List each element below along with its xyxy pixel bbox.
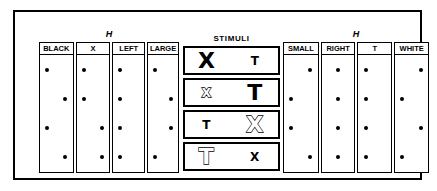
matrix-cell — [113, 143, 144, 172]
matrix-dot — [289, 97, 293, 101]
stimulus-box: XT — [183, 46, 280, 75]
matrix-dot — [419, 126, 423, 130]
matrix-cell — [148, 84, 178, 113]
stimuli-panel: STIMULI XTXTTXTX — [183, 34, 280, 180]
matrix-dot — [308, 155, 312, 159]
column-header: WHITE — [395, 43, 428, 55]
column-header: RIGHT — [322, 43, 355, 55]
column-header: LEFT — [113, 43, 144, 55]
column-body — [284, 55, 318, 172]
matrix-dot — [63, 155, 67, 159]
attribute-column: X — [76, 42, 111, 173]
matrix-cell — [113, 55, 144, 84]
matrix-dot — [82, 97, 86, 101]
stimulus-glyph-left: X — [198, 50, 215, 72]
matrix-cell — [40, 143, 73, 172]
stimulus-box: TX — [183, 110, 280, 139]
matrix-dot — [419, 68, 423, 72]
right-attribute-panel: H SMALLRIGHTTWHITE — [283, 30, 429, 180]
attribute-column: SMALL — [283, 42, 319, 173]
figure-outer-frame: H BLACKXLEFTLARGE STIMULI XTXTTXTX H SMA… — [13, 10, 422, 180]
matrix-cell — [284, 143, 318, 172]
column-header: X — [77, 43, 110, 55]
column-header: LARGE — [148, 43, 178, 55]
column-header: SMALL — [284, 43, 318, 55]
attribute-column: LEFT — [112, 42, 145, 173]
attribute-column: LARGE — [147, 42, 179, 173]
matrix-dot — [118, 68, 122, 72]
column-body — [113, 55, 144, 172]
matrix-cell — [77, 84, 110, 113]
matrix-cell — [113, 114, 144, 143]
matrix-cell — [148, 55, 178, 84]
matrix-cell — [148, 114, 178, 143]
matrix-cell — [395, 84, 428, 113]
column-body — [395, 55, 428, 172]
matrix-dot — [118, 97, 122, 101]
stimulus-glyph-left: T — [199, 146, 214, 168]
matrix-dot — [118, 126, 122, 130]
matrix-dot — [364, 126, 368, 130]
matrix-cell — [395, 55, 428, 84]
matrix-cell — [358, 114, 391, 143]
attribute-column: WHITE — [394, 42, 429, 173]
matrix-cell — [284, 114, 318, 143]
matrix-cell — [77, 114, 110, 143]
matrix-dot — [400, 155, 404, 159]
matrix-dot — [100, 155, 104, 159]
matrix-dot — [45, 126, 49, 130]
matrix-dot — [336, 126, 340, 130]
matrix-cell — [395, 114, 428, 143]
matrix-dot — [82, 68, 86, 72]
stimulus-box: TX — [183, 142, 280, 171]
matrix-cell — [40, 84, 73, 113]
stimulus-glyph-left: X — [202, 87, 211, 99]
stimulus-glyph-right: X — [246, 114, 263, 136]
column-body — [358, 55, 391, 172]
matrix-dot — [364, 97, 368, 101]
column-body — [322, 55, 355, 172]
matrix-cell — [358, 84, 391, 113]
column-body — [148, 55, 178, 172]
matrix-dot — [364, 68, 368, 72]
column-header: BLACK — [40, 43, 73, 55]
figure-root: H BLACKXLEFTLARGE STIMULI XTXTTXTX H SMA… — [0, 0, 437, 191]
matrix-dot — [153, 68, 157, 72]
right-panel-columns: SMALLRIGHTTWHITE — [283, 42, 429, 173]
matrix-cell — [77, 55, 110, 84]
matrix-dot — [45, 68, 49, 72]
matrix-cell — [113, 84, 144, 113]
matrix-cell — [322, 55, 355, 84]
matrix-dot — [308, 68, 312, 72]
matrix-cell — [40, 114, 73, 143]
matrix-dot — [100, 126, 104, 130]
matrix-cell — [40, 55, 73, 84]
stimuli-list: XTXTTXTX — [183, 46, 280, 171]
matrix-dot — [289, 126, 293, 130]
matrix-cell — [358, 55, 391, 84]
stimulus-glyph-right: T — [247, 82, 262, 104]
column-body — [77, 55, 110, 172]
column-body — [40, 55, 73, 172]
attribute-column: T — [357, 42, 392, 173]
matrix-cell — [395, 143, 428, 172]
matrix-cell — [322, 143, 355, 172]
matrix-dot — [169, 97, 173, 101]
matrix-cell — [322, 84, 355, 113]
stimulus-glyph-right: X — [250, 151, 259, 163]
matrix-cell — [77, 143, 110, 172]
attribute-column: RIGHT — [321, 42, 356, 173]
left-attribute-panel: H BLACKXLEFTLARGE — [39, 30, 179, 180]
matrix-cell — [358, 143, 391, 172]
matrix-dot — [63, 97, 67, 101]
matrix-cell — [148, 143, 178, 172]
matrix-dot — [336, 68, 340, 72]
matrix-dot — [153, 155, 157, 159]
stimuli-panel-title: STIMULI — [183, 34, 280, 46]
matrix-dot — [336, 97, 340, 101]
right-panel-title: H — [283, 30, 429, 39]
matrix-cell — [284, 55, 318, 84]
stimulus-glyph-right: T — [251, 55, 259, 67]
matrix-dot — [169, 126, 173, 130]
left-panel-title: H — [39, 30, 179, 39]
